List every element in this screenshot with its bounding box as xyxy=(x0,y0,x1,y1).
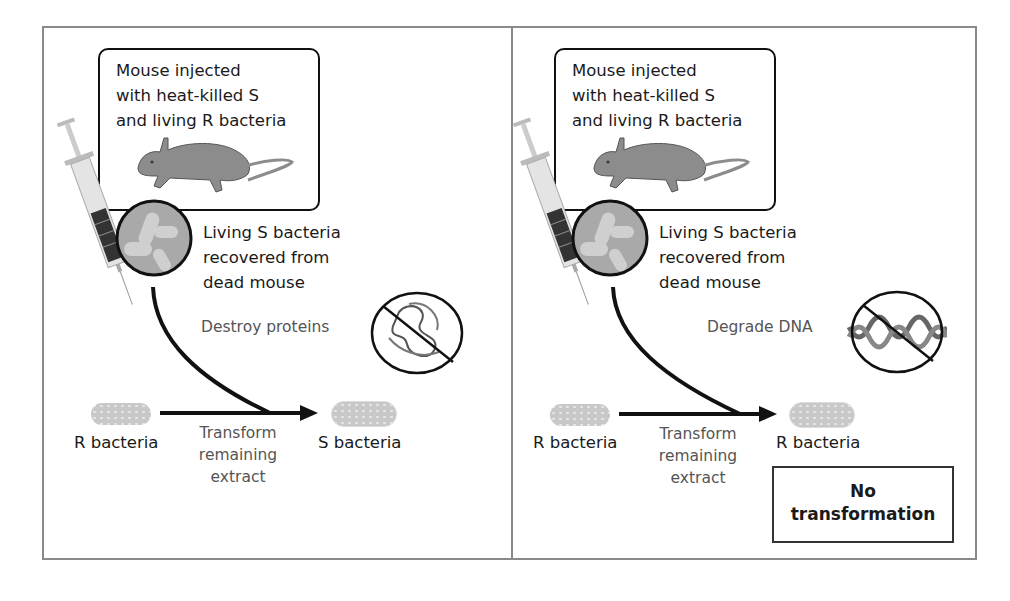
treatment-label: Destroy proteins xyxy=(201,318,329,336)
mouse-icon xyxy=(586,130,756,200)
treatment-label: Degrade DNA xyxy=(707,318,813,336)
magnified-bacteria-icon xyxy=(114,198,194,278)
input-label: R bacteria xyxy=(533,433,617,452)
dna-prohibited-icon xyxy=(847,289,947,375)
r-bacterium-output xyxy=(789,402,855,428)
s-bacterium xyxy=(331,401,397,427)
recovered-text: Living S bacteria recovered from dead mo… xyxy=(203,220,341,295)
r-bacterium xyxy=(550,404,610,426)
protein-prohibited-icon xyxy=(369,290,465,376)
output-label: S bacteria xyxy=(318,433,401,452)
process-label: Transform remaining extract xyxy=(643,423,753,489)
output-label: R bacteria xyxy=(776,433,860,452)
process-label: Transform remaining extract xyxy=(183,422,293,488)
input-label: R bacteria xyxy=(74,433,158,452)
no-transformation-box: No transformation xyxy=(772,466,954,543)
recovered-text: Living S bacteria recovered from dead mo… xyxy=(659,220,797,295)
panel-protein-destroyed: Mouse injected with heat-killed S and li… xyxy=(0,0,470,601)
magnified-bacteria-icon xyxy=(570,198,650,278)
r-bacterium xyxy=(91,403,151,425)
mouse-icon xyxy=(130,130,300,200)
